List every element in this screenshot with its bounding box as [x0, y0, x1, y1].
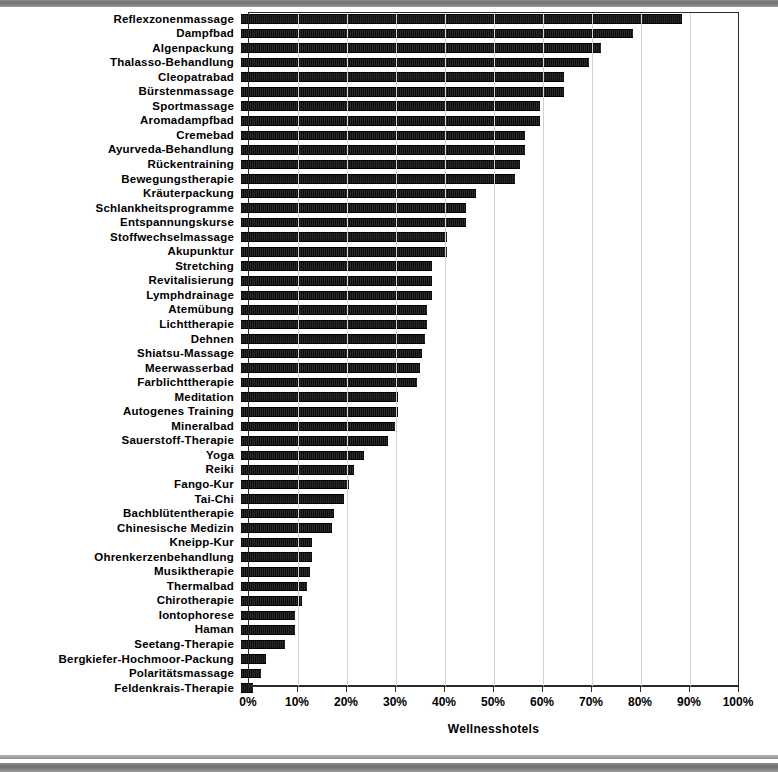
category-label: Fango-Kur: [0, 479, 241, 491]
bar: [241, 582, 307, 592]
bar-row: Meditation: [0, 390, 778, 405]
category-label: Yoga: [0, 450, 241, 462]
bar: [241, 247, 447, 257]
bar-track: [241, 434, 731, 449]
category-label: Bürstenmassage: [0, 86, 241, 98]
bar-row: Revitalisierung: [0, 274, 778, 289]
bar: [241, 14, 682, 24]
category-label: Akupunktur: [0, 246, 241, 258]
bar: [241, 625, 295, 635]
bar: [241, 611, 295, 621]
category-label: Shiatsu-Massage: [0, 348, 241, 360]
category-label: Entspannungskurse: [0, 217, 241, 229]
bar-track: [241, 56, 731, 71]
bar: [241, 174, 515, 184]
bar: [241, 552, 312, 562]
bar-row: Algenpackung: [0, 41, 778, 56]
category-label: Schlankheitsprogramme: [0, 203, 241, 215]
bar: [241, 203, 466, 213]
bar-track: [241, 565, 731, 580]
bar-row: Farblichttherapie: [0, 376, 778, 391]
bar-row: Mineralbad: [0, 419, 778, 434]
bar-row: Rückentraining: [0, 157, 778, 172]
x-axis-tick: [493, 687, 494, 692]
bar-row: Ohrenkerzenbehandlung: [0, 550, 778, 565]
bar-row: Haman: [0, 623, 778, 638]
category-label: Bewegungstherapie: [0, 174, 241, 186]
category-label: Mineralbad: [0, 421, 241, 433]
x-axis: Wellnesshotels 0%10%20%30%40%50%60%70%80…: [0, 687, 778, 757]
bar-row: Tai-Chi: [0, 492, 778, 507]
category-label: Thermalbad: [0, 581, 241, 593]
horizontal-bar-chart: ReflexzonenmassageDampfbadAlgenpackungTh…: [0, 12, 778, 760]
category-label: Meditation: [0, 392, 241, 404]
x-axis-tick-label: 60%: [530, 695, 554, 709]
category-label: Stoffwechselmassage: [0, 232, 241, 244]
category-label: Farblichttherapie: [0, 377, 241, 389]
category-label: Chirotherapie: [0, 595, 241, 607]
bar-track: [241, 594, 731, 609]
bar-track: [241, 230, 731, 245]
bar-row: Dehnen: [0, 332, 778, 347]
x-axis-tick-label: 0%: [239, 695, 256, 709]
bar-row: Stoffwechselmassage: [0, 230, 778, 245]
bar-row: Schlankheitsprogramme: [0, 201, 778, 216]
chart-page: ReflexzonenmassageDampfbadAlgenpackungTh…: [0, 0, 778, 772]
x-axis-title: Wellnesshotels: [248, 722, 739, 736]
bar: [241, 480, 349, 490]
bar: [241, 494, 344, 504]
scan-artifact-band-lower: [0, 755, 778, 759]
category-label: Musiktherapie: [0, 566, 241, 578]
bar: [241, 261, 432, 271]
bar-track: [241, 390, 731, 405]
bar-row: Dampfbad: [0, 27, 778, 42]
bar: [241, 640, 285, 650]
bar-track: [241, 521, 731, 536]
bar-track: [241, 608, 731, 623]
bar: [241, 218, 466, 228]
category-label: Kneipp-Kur: [0, 537, 241, 549]
x-axis-tick: [591, 687, 592, 692]
bar: [241, 349, 422, 359]
bar-row: Meerwasserbad: [0, 361, 778, 376]
bar-track: [241, 332, 731, 347]
bar-track: [241, 448, 731, 463]
bar: [241, 276, 432, 286]
bar-row: Polaritätsmassage: [0, 667, 778, 682]
bar: [241, 116, 540, 126]
bar: [241, 654, 266, 664]
bar-track: [241, 652, 731, 667]
category-label: Lymphdrainage: [0, 290, 241, 302]
bar-row: Chirotherapie: [0, 594, 778, 609]
bar-row: Kräuterpackung: [0, 187, 778, 202]
bar-row: Aromadampfbad: [0, 114, 778, 129]
x-axis-tick-label: 80%: [628, 695, 652, 709]
bar-row: Musiktherapie: [0, 565, 778, 580]
bar: [241, 451, 364, 461]
bar: [241, 72, 564, 82]
bar: [241, 422, 395, 432]
bar: [241, 378, 417, 388]
category-label: Reiki: [0, 464, 241, 476]
bar-track: [241, 85, 731, 100]
bar: [241, 160, 520, 170]
bar: [241, 596, 302, 606]
bar-track: [241, 274, 731, 289]
scan-artifact-band-top: [0, 0, 778, 7]
bar-track: [241, 12, 731, 27]
category-label: Haman: [0, 624, 241, 636]
bar: [241, 407, 398, 417]
bar-track: [241, 128, 731, 143]
bar-row: Lichttherapie: [0, 317, 778, 332]
category-label: Meerwasserbad: [0, 363, 241, 375]
x-axis-tick-label: 40%: [432, 695, 456, 709]
bar: [241, 523, 332, 533]
category-label: Bergkiefer-Hochmoor-Packung: [0, 654, 241, 666]
bar: [241, 131, 525, 141]
category-label: Atemübung: [0, 304, 241, 316]
bar-track: [241, 201, 731, 216]
bar-track: [241, 463, 731, 478]
bar: [241, 291, 432, 301]
bar-row: Autogenes Training: [0, 405, 778, 420]
bar-track: [241, 667, 731, 682]
